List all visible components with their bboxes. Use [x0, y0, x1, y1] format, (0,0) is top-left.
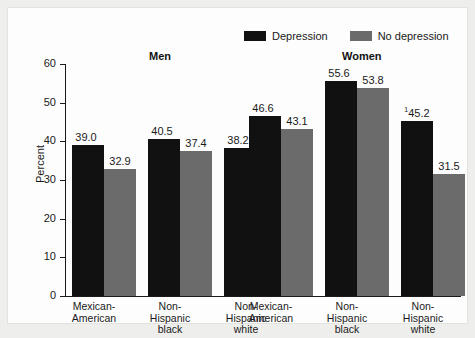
x-axis-line: [65, 296, 461, 297]
legend-swatch-no-depression: [350, 31, 372, 41]
legend-item-no-depression: No depression: [350, 31, 449, 42]
legend-label-no-depression: No depression: [378, 31, 449, 42]
category-label-women-mexican-american: Mexican- American: [227, 301, 315, 324]
bar-men-mexican-american-depression[interactable]: [72, 145, 104, 296]
bar-value-women-non-hispanic-white-no-depression: 31.5: [427, 161, 471, 172]
category-label-men-mexican-american: Mexican- American: [50, 301, 138, 324]
y-tick-label-0: 0: [24, 290, 56, 301]
bar-women-non-hispanic-black-no-depression[interactable]: [357, 88, 389, 296]
bar-value-men-mexican-american-depression: 39.0: [64, 132, 108, 143]
category-label-women-non-hispanic-white: Non- Hispanic white: [379, 301, 467, 336]
cat-line-1: Non-: [126, 301, 214, 313]
legend-label-depression: Depression: [272, 31, 328, 42]
cat-line-1: Mexican-: [227, 301, 315, 313]
bar-women-mexican-american-no-depression[interactable]: [281, 129, 313, 296]
bar-value-men-non-hispanic-black-no-depression: 37.4: [174, 138, 218, 149]
y-tick-label-60: 60: [24, 58, 56, 69]
chart-legend: Depression No depression: [244, 29, 449, 43]
chart-canvas: Depression No depression Men Women Perce…: [8, 8, 467, 323]
cat-line-1: Non-: [379, 301, 467, 313]
chart-figure: Depression No depression Men Women Perce…: [0, 0, 475, 338]
y-tick-label-10: 10: [24, 251, 56, 262]
cat-line-3: white: [202, 324, 290, 336]
legend-swatch-depression: [244, 31, 266, 41]
cat-line-1: Non-: [303, 301, 391, 313]
panel-title-women: Women: [342, 50, 382, 62]
panel-title-men: Men: [149, 50, 171, 62]
category-label-men-non-hispanic-black: Non- Hispanic black: [126, 301, 214, 336]
cat-line-2: American: [50, 313, 138, 325]
y-tick-label-30: 30: [24, 174, 56, 185]
bar-value-women-non-hispanic-black-no-depression: 53.8: [351, 75, 395, 86]
bar-value-men-mexican-american-no-depression: 32.9: [98, 156, 142, 167]
bar-men-mexican-american-no-depression[interactable]: [104, 169, 136, 296]
bar-value-men-non-hispanic-black-depression: 40.5: [140, 126, 184, 137]
y-tick-0: [60, 296, 66, 297]
cat-line-3: white: [379, 324, 467, 336]
y-tick-label-50: 50: [24, 97, 56, 108]
y-tick-label-40: 40: [24, 135, 56, 146]
cat-line-3: black: [126, 324, 214, 336]
bar-women-non-hispanic-black-depression[interactable]: [325, 81, 357, 296]
plot-area: 39.0 32.9 40.5 37.4 38.2 33.4 46.6 43.1 …: [66, 64, 461, 296]
bar-value-women-mexican-american-no-depression: 43.1: [275, 116, 319, 127]
bar-value-women-mexican-american-depression: 46.6: [241, 103, 285, 114]
bar-women-mexican-american-depression[interactable]: [249, 116, 281, 296]
bar-men-non-hispanic-black-no-depression[interactable]: [180, 151, 212, 296]
cat-line-3: black: [303, 324, 391, 336]
legend-item-depression: Depression: [244, 31, 328, 42]
bar-value-text: 45.2: [408, 107, 429, 119]
bar-value-women-non-hispanic-white-depression: 145.2: [393, 108, 441, 119]
bar-women-non-hispanic-white-no-depression[interactable]: [433, 174, 465, 296]
category-label-women-non-hispanic-black: Non- Hispanic black: [303, 301, 391, 336]
cat-line-2: American: [227, 313, 315, 325]
bar-women-non-hispanic-white-depression[interactable]: [401, 121, 433, 296]
bar-men-non-hispanic-black-depression[interactable]: [148, 139, 180, 296]
y-tick-label-20: 20: [24, 213, 56, 224]
cat-line-1: Mexican-: [50, 301, 138, 313]
